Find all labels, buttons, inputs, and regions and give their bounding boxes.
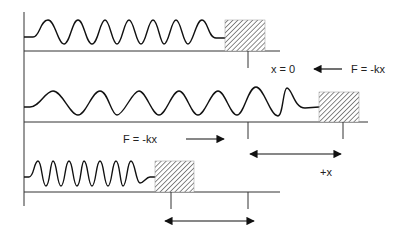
spring-diagram: x = 0 F = -kx F = -kx +x <box>0 0 404 240</box>
equilibrium-label: x = 0 <box>271 63 295 75</box>
displacement-label: +x <box>320 166 332 178</box>
force-label-middle: F = -kx <box>123 133 157 145</box>
force-label-top: F = -kx <box>351 63 385 75</box>
spring-relaxed <box>24 20 225 44</box>
mass-block-compressed <box>155 161 194 192</box>
spring-compressed <box>24 161 155 186</box>
mass-block-equilibrium <box>225 20 265 51</box>
spring-stretched <box>24 87 319 116</box>
mass-block-stretched <box>319 92 359 122</box>
